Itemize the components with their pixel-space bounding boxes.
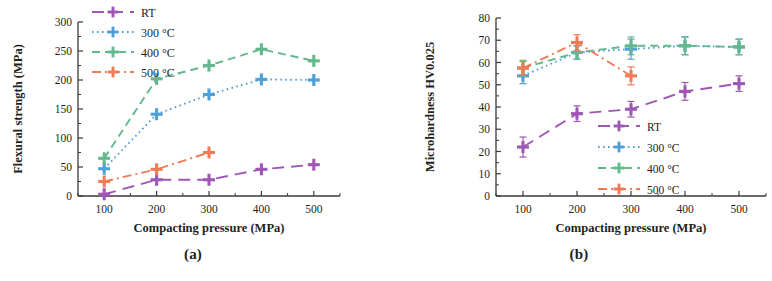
x-tick-label: 300 — [200, 203, 218, 215]
series-300c — [98, 73, 320, 174]
y-tick-label: 10 — [479, 168, 491, 180]
chart-b-svg: 01020304050607080100200300400500Compacti… — [386, 0, 772, 240]
y-tick-label: 100 — [55, 132, 73, 144]
y-tick-label: 80 — [479, 12, 491, 24]
legend-label: 300 °C — [647, 142, 680, 154]
chart-b-plot-area: 01020304050607080100200300400500Compacti… — [386, 0, 772, 240]
series-400c — [98, 43, 320, 164]
x-tick-label: 200 — [568, 203, 586, 215]
legend-label: RT — [647, 121, 661, 133]
legend-label: 500 °C — [647, 184, 680, 196]
y-tick-label: 40 — [479, 101, 491, 113]
chart-legend: RT300 °C400 °C500 °C — [92, 6, 175, 80]
x-tick-label: 200 — [148, 203, 166, 215]
y-axis-title: Microhardness HV0.025 — [423, 42, 437, 172]
chart-a-svg: 050100150200250300100200300400500Compact… — [0, 0, 386, 240]
y-tick-label: 50 — [61, 161, 73, 173]
legend-label: RT — [141, 6, 156, 20]
y-tick-label: 30 — [479, 123, 491, 135]
panel-b: 01020304050607080100200300400500Compacti… — [386, 0, 772, 281]
x-tick-label: 400 — [676, 203, 694, 215]
panel-a: 050100150200250300100200300400500Compact… — [0, 0, 386, 281]
y-tick-label: 20 — [479, 146, 491, 158]
x-tick-label: 300 — [622, 203, 640, 215]
legend-label: 400 °C — [647, 163, 680, 175]
panel-b-caption: (b) — [386, 246, 772, 263]
x-axis-title: Compacting pressure (MPa) — [556, 221, 707, 235]
x-tick-label: 400 — [253, 203, 271, 215]
figure-two-panel-line-charts: 050100150200250300100200300400500Compact… — [0, 0, 772, 281]
y-tick-label: 60 — [479, 57, 491, 69]
legend-label: 400 °C — [141, 46, 175, 60]
panel-a-caption: (a) — [0, 246, 386, 263]
x-axis-title: Compacting pressure (MPa) — [134, 221, 285, 235]
series-rt — [517, 76, 745, 157]
legend-label: 500 °C — [141, 66, 175, 80]
y-tick-label: 200 — [55, 74, 73, 86]
y-tick-label: 70 — [479, 34, 491, 46]
y-axis-title: Flexural strength (MPa) — [11, 44, 25, 174]
legend-label: 300 °C — [141, 26, 175, 40]
y-tick-label: 0 — [484, 190, 490, 202]
y-tick-label: 300 — [55, 16, 73, 28]
x-tick-label: 100 — [96, 203, 114, 215]
x-tick-label: 500 — [730, 203, 748, 215]
y-tick-label: 50 — [479, 79, 491, 91]
x-tick-label: 500 — [305, 203, 323, 215]
y-tick-label: 150 — [55, 103, 73, 115]
chart-legend: RT300 °C400 °C500 °C — [598, 121, 680, 196]
y-tick-label: 0 — [66, 190, 72, 202]
chart-a-plot-area: 050100150200250300100200300400500Compact… — [0, 0, 386, 240]
x-tick-label: 100 — [514, 203, 532, 215]
y-tick-label: 250 — [55, 45, 73, 57]
